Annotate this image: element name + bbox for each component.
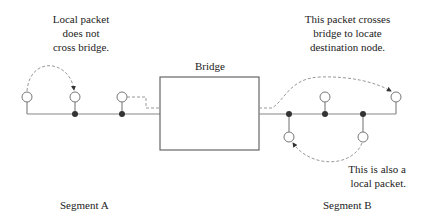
segment-a-tap-1 [72,111,78,117]
segment-a-node-2 [70,92,80,102]
segment-a-bus [22,92,160,117]
segment-b-tap-2 [322,111,328,117]
segment-b-label: Segment B [323,198,372,212]
packet-into-bridge-path [127,97,160,108]
segment-a-label: Segment A [60,198,109,212]
segment-b-node-1 [284,132,294,142]
segment-a-tap-2 [119,111,125,117]
segment-b-node-3 [358,132,368,142]
segment-b-bus [259,92,401,142]
segment-b-node-4 [391,92,401,102]
segment-a-node-1 [22,92,32,102]
local-packet-a-annotation: Local packet does not cross bridge. [48,12,114,54]
segment-b-tap-1 [286,111,292,117]
segment-b-node-2 [320,92,330,102]
local-packet-b-arrow [293,143,362,162]
bridge-box [160,77,259,150]
local-packet-b-annotation: This is also a local packet. [335,162,406,190]
crossing-packet-annotation: This packet crosses bridge to locate des… [290,12,405,54]
segment-a-node-3 [117,92,127,102]
bridge-label: Bridge [180,59,240,73]
segment-b-tap-3 [360,111,366,117]
local-packet-a-arrow [27,66,74,91]
